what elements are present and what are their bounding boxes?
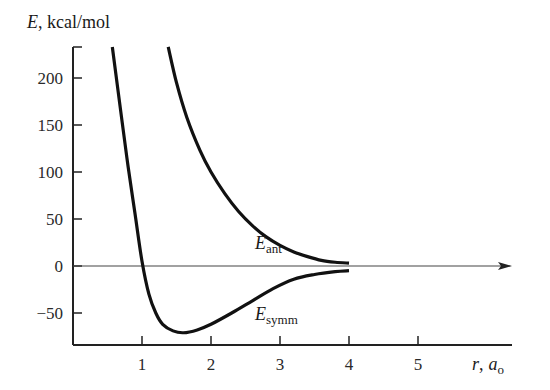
x-tick-label: 2 [207, 355, 216, 374]
y-axis-title: E, kcal/mol [26, 12, 110, 32]
x-axis: 12345 [73, 336, 512, 374]
y-tick-label: −50 [36, 304, 63, 323]
y-tick-label: 150 [38, 116, 64, 135]
series-label-symm: Esymm [254, 304, 298, 327]
y-axis: 200150100500−50 [36, 47, 82, 345]
x-tick-label: 3 [276, 355, 285, 374]
curve-e-symm [112, 47, 349, 333]
x-axis-title: r,ao [472, 354, 504, 377]
x-tick-label: 4 [345, 355, 354, 374]
x-tick-label: 5 [414, 355, 423, 374]
series-curves [112, 47, 349, 333]
y-tick-label: 100 [38, 163, 64, 182]
potential-energy-chart: E, kcal/mol 200150100500−50 12345 Eant E… [0, 0, 550, 390]
curve-e-ant [168, 47, 349, 263]
zero-line [73, 262, 512, 270]
y-tick-label: 0 [55, 257, 64, 276]
x-tick-label: 1 [138, 355, 147, 374]
y-tick-label: 200 [38, 69, 64, 88]
y-tick-label: 50 [46, 210, 63, 229]
